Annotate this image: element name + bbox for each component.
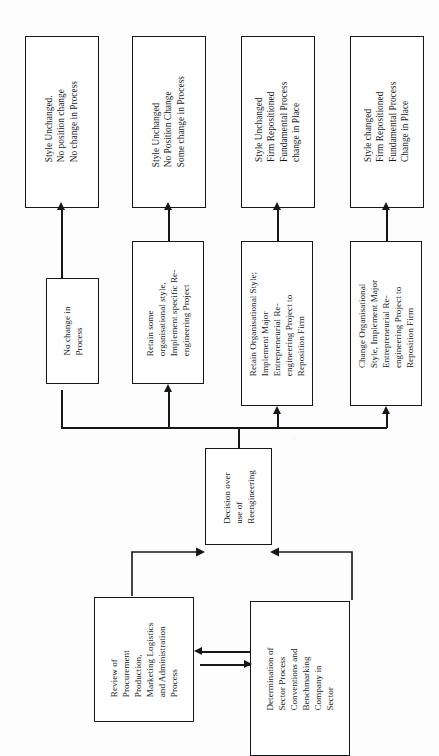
distribution-bus — [61, 427, 387, 429]
action-box-1-label: No change in Process — [61, 306, 85, 355]
connector-sector-to-decision — [268, 530, 354, 602]
arrowhead-action-3 — [273, 406, 281, 414]
connector-action2-to-outcome2 — [168, 208, 170, 241]
scanned-page: Style Unchanged. No position change No c… — [0, 0, 439, 756]
input-box-sector-label: Determination of Sector Process Conventi… — [264, 647, 336, 710]
connector-action1-to-outcome1 — [61, 208, 63, 278]
action-box-2: Retain some organisational style, Implem… — [132, 241, 204, 384]
outcome-box-3: Style Unchanged Firm Repositioned Fundam… — [241, 36, 315, 208]
action-box-2-label: Retain some organisational style, Implem… — [144, 269, 192, 355]
input-box-review: Review of Procurement Production, Market… — [94, 597, 194, 722]
outcome-box-4-label: Style changed Firm Repositioned Fundamen… — [362, 82, 412, 162]
action-box-3: Retain Organisational Style; Implement M… — [241, 241, 313, 406]
connector-inputs-exchange-lower — [200, 664, 250, 666]
arrowhead-exchange-right — [244, 660, 252, 668]
action-box-4-label: Change Organisational Style, Implement M… — [356, 279, 416, 367]
arrowhead-action-4 — [382, 406, 390, 414]
action-box-3-label: Retain Organisational Style; Implement M… — [247, 271, 307, 375]
running-head — [14, 0, 224, 7]
action-box-1: No change in Process — [46, 278, 99, 384]
input-box-review-label: Review of Procurement Production, Market… — [108, 622, 180, 696]
action-box-4: Change Organisational Style, Implement M… — [350, 241, 422, 406]
arrowhead-outcome-2 — [164, 202, 172, 210]
arrowhead-exchange-left — [194, 647, 202, 655]
connector-bus-to-action1 — [61, 390, 63, 428]
connector-decision-to-bus — [238, 427, 240, 449]
decision-box-label: Decision over use of Reengineering — [221, 470, 257, 524]
outcome-box-2-label: Style Unchanged No Position Change Some … — [150, 76, 187, 167]
connector-bus-to-action2 — [168, 390, 170, 428]
outcome-box-1: Style Unchanged. No position change No c… — [25, 36, 99, 208]
connector-bus-to-action3 — [277, 412, 279, 428]
arrowhead-action-2 — [164, 384, 172, 392]
connector-review-to-decision — [130, 530, 210, 598]
arrowhead-outcome-1 — [57, 202, 65, 210]
outcome-box-1-label: Style Unchanged. No position change No c… — [43, 81, 80, 162]
connector-inputs-exchange-upper — [200, 651, 250, 653]
outcome-box-2: Style Unchanged No Position Change Some … — [132, 36, 206, 208]
connector-action4-to-outcome4 — [386, 208, 388, 241]
arrowhead-outcome-3 — [273, 202, 281, 210]
outcome-box-3-label: Style Unchanged Firm Repositioned Fundam… — [253, 82, 303, 162]
outcome-box-4: Style changed Firm Repositioned Fundamen… — [350, 36, 424, 208]
connector-bus-to-action4 — [386, 412, 388, 428]
input-box-sector: Determination of Sector Process Conventi… — [250, 601, 350, 756]
connector-action3-to-outcome3 — [277, 208, 279, 241]
arrowhead-outcome-4 — [382, 202, 390, 210]
decision-box: Decision over use of Reengineering — [205, 448, 272, 545]
